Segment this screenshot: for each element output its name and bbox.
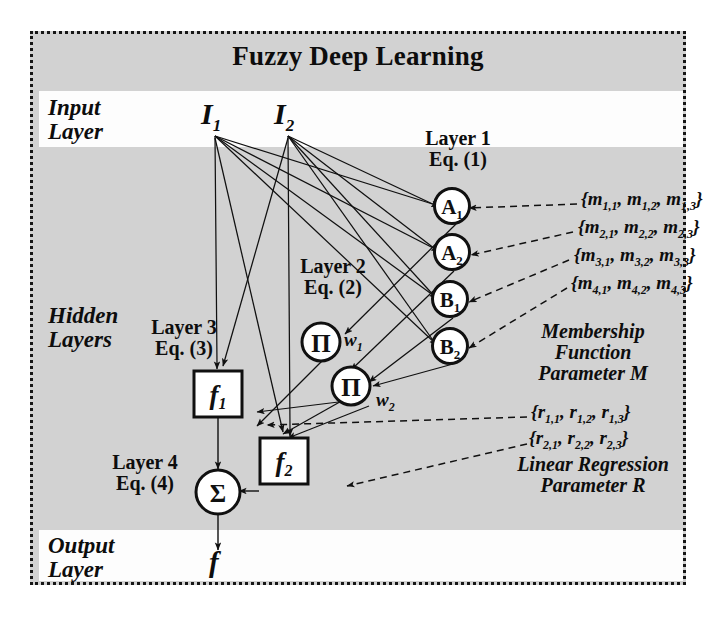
m32-base: m — [620, 244, 635, 265]
m22-base: m — [624, 216, 639, 237]
layer-label-2-name: Layer 2 — [278, 256, 388, 277]
page-title: Fuzzy Deep Learning — [33, 42, 683, 70]
node-sum-label: Σ — [210, 480, 226, 507]
diagram-frame: A1 A2 B1 B2 Π Π f1 f2 — [30, 31, 686, 585]
side-label-hidden-line1: Hidden — [48, 304, 118, 328]
regression-caption: Linear Regression Parameter R — [503, 454, 683, 496]
regression-caption-line1: Linear Regression — [503, 454, 683, 475]
edge-r2-f2 — [347, 444, 527, 486]
m22-sub: 2,2 — [639, 227, 654, 241]
m12-sub: 1,2 — [642, 199, 657, 213]
network-graph: A1 A2 B1 B2 Π Π f1 f2 — [33, 34, 689, 588]
m23-base: m — [663, 216, 678, 237]
layer-label-1-eq: Eq. (1) — [403, 149, 513, 170]
side-label-output-line1: Output — [48, 534, 114, 558]
m23-sub: 2,3 — [678, 227, 693, 241]
r22-base: r — [568, 427, 575, 448]
weight-label-w2: w2 — [376, 390, 395, 413]
membership-caption-line2: Function — [503, 342, 683, 363]
m41-sub: 4,1 — [592, 283, 607, 297]
sum-node-group: Σ — [196, 470, 240, 514]
m13-base: m — [666, 188, 681, 209]
m31-base: m — [581, 244, 596, 265]
r21-base: r — [536, 427, 543, 448]
side-label-input-line2: Layer — [48, 120, 103, 144]
m11-sub: 1,1 — [602, 199, 617, 213]
r22-sub: 2,2 — [575, 438, 590, 452]
m42-base: m — [617, 272, 632, 293]
side-label-input: Input Layer — [48, 96, 103, 144]
regression-param-row-2: {r2,1, r2,2, r2,3} — [529, 428, 628, 451]
edge-m2-a2 — [471, 232, 573, 255]
r21-sub: 2,1 — [543, 438, 558, 452]
layer-label-2: Layer 2 Eq. (2) — [278, 256, 388, 298]
side-label-output: Output Layer — [48, 534, 114, 582]
edge-b2-prod2 — [373, 364, 453, 386]
layer-label-4-eq: Eq. (4) — [95, 473, 195, 494]
side-label-hidden-line2: Layers — [48, 328, 118, 352]
layer-label-1-name: Layer 1 — [403, 128, 513, 149]
m42-sub: 4,2 — [632, 283, 647, 297]
m33-sub: 3,3 — [674, 255, 689, 269]
side-label-hidden: Hidden Layers — [48, 304, 118, 352]
layer-label-3-name: Layer 3 — [129, 317, 239, 338]
input-node-I1-base: I — [201, 97, 213, 130]
m43-sub: 4,3 — [671, 283, 686, 297]
figure-canvas: A1 A2 B1 B2 Π Π f1 f2 — [0, 0, 716, 618]
regression-caption-line2: Parameter R — [503, 475, 683, 496]
side-label-output-line2: Layer — [48, 558, 114, 582]
node-product-2-label: Π — [341, 374, 360, 401]
r12-sub: 1,2 — [577, 412, 592, 426]
m41-base: m — [578, 272, 593, 293]
edge-m1-a1 — [469, 204, 577, 208]
membership-caption-line3: Parameter M — [503, 363, 683, 384]
input-node-I2-sub: 2 — [286, 116, 295, 135]
m21-sub: 2,1 — [599, 227, 614, 241]
node-product-1-label: Π — [311, 330, 330, 357]
m12-base: m — [627, 188, 642, 209]
r11-base: r — [538, 401, 545, 422]
r23-sub: 2,3 — [607, 438, 622, 452]
r11-sub: 1,1 — [545, 412, 560, 426]
function-node-group: f1 f2 — [194, 371, 308, 484]
membership-param-row-3: {m3,1, m3,2, m3,3} — [574, 245, 696, 268]
m33-base: m — [659, 244, 674, 265]
layer-label-2-eq: Eq. (2) — [278, 277, 388, 298]
layer-label-4: Layer 4 Eq. (4) — [95, 452, 195, 494]
membership-param-row-4: {m4,1, m4,2, m4,3} — [571, 273, 693, 296]
output-node-f: f — [209, 547, 219, 577]
layer-label-4-name: Layer 4 — [95, 452, 195, 473]
layer-label-3: Layer 3 Eq. (3) — [129, 317, 239, 359]
output-node-f-base: f — [209, 546, 219, 578]
input-node-I1[interactable]: I1 — [201, 98, 221, 135]
m11-base: m — [588, 188, 603, 209]
r13-base: r — [601, 401, 608, 422]
weight-label-w2-sub: 2 — [389, 400, 395, 414]
membership-caption: Membership Function Parameter M — [503, 321, 683, 383]
r12-base: r — [570, 401, 577, 422]
m43-base: m — [656, 272, 671, 293]
m31-sub: 3,1 — [595, 255, 610, 269]
m21-base: m — [585, 216, 600, 237]
weight-label-w1-base: w — [344, 329, 357, 350]
m13-sub: 1,3 — [681, 199, 696, 213]
membership-caption-line1: Membership — [503, 321, 683, 342]
layer-label-1: Layer 1 Eq. (1) — [403, 128, 513, 170]
r13-sub: 1,3 — [609, 412, 624, 426]
weight-label-w1-sub: 1 — [357, 340, 363, 354]
r23-base: r — [599, 427, 606, 448]
input-node-I1-sub: 1 — [213, 116, 222, 135]
input-node-I2[interactable]: I2 — [274, 98, 294, 135]
weight-label-w2-base: w — [376, 389, 389, 410]
membership-param-row-1: {m1,1, m1,2, m1,3} — [581, 189, 703, 212]
m32-sub: 3,2 — [635, 255, 650, 269]
membership-param-row-2: {m2,1, m2,2, m2,3} — [578, 217, 700, 240]
weight-label-w1: w1 — [344, 330, 363, 353]
membership-node-group: A1 A2 B1 B2 — [433, 189, 470, 364]
input-node-I2-base: I — [274, 97, 286, 130]
layer-label-3-eq: Eq. (3) — [129, 338, 239, 359]
regression-param-row-1: {r1,1, r1,2, r1,3} — [531, 402, 630, 425]
side-label-input-line1: Input — [48, 96, 103, 120]
